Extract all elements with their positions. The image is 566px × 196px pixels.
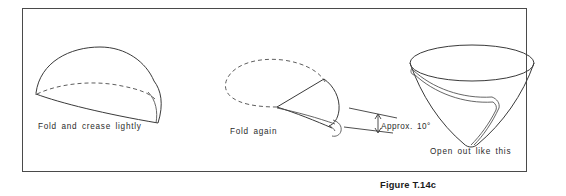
figure-number-caption: Figure T.14c <box>380 180 436 190</box>
angle-annotation-label: Approx. 10° <box>381 122 431 131</box>
stage-caption-fold-and-crease: Fold and crease lightly <box>38 122 142 131</box>
figure-container: Fold and crease lightly Fold again Open … <box>0 0 566 196</box>
stage-caption-open-out: Open out like this <box>430 147 511 156</box>
stage-caption-fold-again: Fold again <box>230 127 277 136</box>
